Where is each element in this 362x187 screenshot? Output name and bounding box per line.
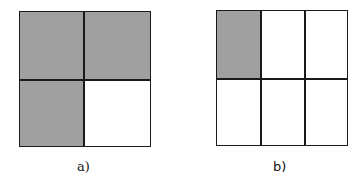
grid-a-cell-r0-c1-shaded xyxy=(84,12,150,79)
figure-b-label: b) xyxy=(273,159,286,174)
grid-a-cell-r1-c1 xyxy=(84,80,150,146)
figure-a-label: a) xyxy=(77,159,90,174)
grid-a-cell-r1-c0-shaded xyxy=(20,80,83,146)
grid-a-cell-r0-c0-shaded xyxy=(20,12,83,79)
grid-b-cell-r0-c0-shaded xyxy=(217,11,260,78)
grid-a-divider-horizontal xyxy=(19,79,151,81)
grid-b-divider-horizontal xyxy=(216,78,348,80)
